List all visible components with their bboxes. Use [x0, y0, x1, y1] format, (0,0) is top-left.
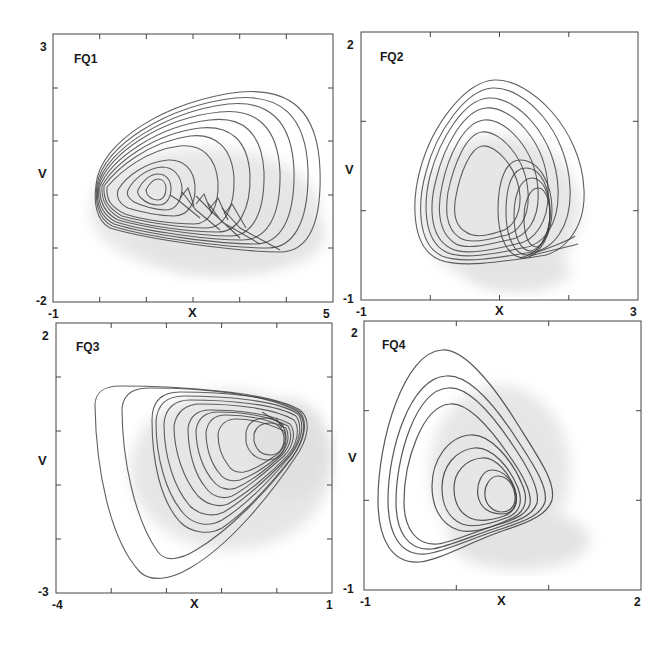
fq1-ymin: -2: [36, 294, 47, 308]
fq1-xmax: 5: [323, 307, 330, 321]
fq4-ymax: 2: [351, 326, 358, 340]
fq2-ylabel: V: [345, 162, 354, 177]
fq3-xmin: -4: [52, 598, 63, 612]
fq2-ymax: 2: [347, 38, 354, 52]
fq4-xlabel: X: [497, 593, 506, 608]
fq2-xmax: 3: [630, 305, 637, 319]
fq4-ymin: -1: [343, 582, 354, 596]
fq3-panel-label: FQ3: [76, 340, 100, 354]
fq4-panel-label: FQ4: [382, 338, 406, 352]
panel-fq1: FQ1 V X 3 -2 -1 5: [36, 34, 333, 321]
fq2-xlabel: X: [495, 303, 504, 318]
fq3-xlabel: X: [190, 596, 199, 611]
fq2-xmin: -1: [356, 305, 367, 319]
fq3-xmax: 1: [326, 598, 333, 612]
fq1-ylabel: V: [38, 166, 47, 181]
fq3-ymax: 2: [42, 329, 49, 343]
fq1-panel-label: FQ1: [74, 52, 98, 66]
fq3-ylabel: V: [38, 453, 47, 468]
panel-fq3: FQ3 V X 2 -3 -4 1: [38, 323, 333, 612]
fq2-ymin: -1: [343, 292, 354, 306]
fq2-panel-label: FQ2: [380, 50, 404, 64]
fq4-xmax: 2: [634, 595, 641, 609]
figure: FQ1 V X 3 -2 -1 5: [0, 0, 669, 645]
fq1-xmin: -1: [48, 307, 59, 321]
panel-fq2: FQ2 V X 2 -1 -1 3: [343, 32, 638, 319]
fq1-ymax: 3: [40, 40, 47, 54]
fq1-xlabel: X: [188, 305, 197, 320]
panel-fq4: FQ4 V X 2 -1 -1 2: [343, 321, 641, 609]
fq3-ymin: -3: [38, 585, 49, 599]
fq4-xmin: -1: [360, 595, 371, 609]
fq4-ylabel: V: [348, 450, 357, 465]
